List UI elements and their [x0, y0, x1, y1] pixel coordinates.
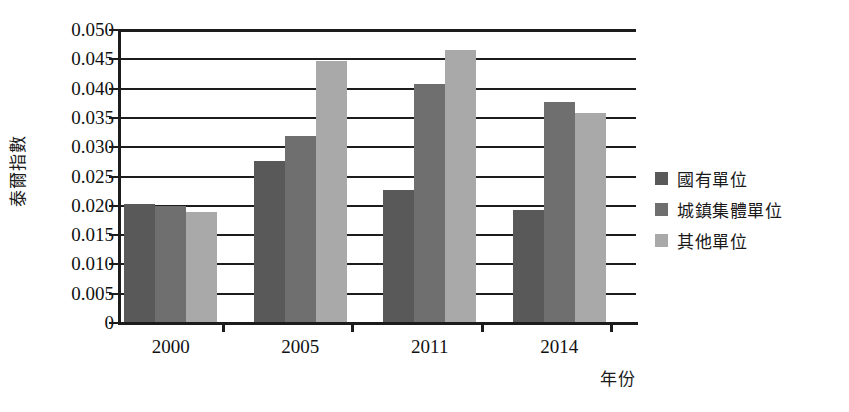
bar [285, 136, 316, 322]
legend-label: 國有單位 [677, 166, 747, 191]
x-axis-tick-mark [610, 322, 613, 332]
y-axis-tick-mark [109, 234, 118, 236]
y-axis-tick-mark [109, 88, 118, 90]
bar [383, 190, 414, 322]
y-axis-tick-mark [109, 146, 118, 148]
y-axis-tick-label: 0.040 [71, 78, 114, 97]
y-axis-tick-label: 0.020 [71, 195, 114, 214]
y-axis-tick-mark [109, 322, 118, 324]
bar [155, 206, 186, 322]
legend-swatch-icon [655, 172, 668, 185]
plot-area [118, 29, 636, 322]
x-axis-tick-label: 2011 [411, 336, 448, 358]
y-axis-tick-label: 0.035 [71, 107, 114, 126]
legend-item: 城鎮集體單位 [655, 194, 845, 225]
x-axis-tick-mark [351, 322, 354, 332]
y-axis-tick-label: 0.025 [71, 166, 114, 185]
y-axis-tick-mark [109, 117, 118, 119]
bar [124, 204, 155, 322]
y-axis-tick-label: 0.050 [71, 20, 114, 39]
bar-chart-figure: 泰爾指數 0.0500.0450.0400.0350.0300.0250.020… [0, 0, 849, 412]
legend-item: 其他單位 [655, 225, 845, 256]
bar [513, 210, 544, 323]
bar-groups [118, 29, 636, 322]
x-axis-tick-label: 2014 [540, 336, 578, 358]
y-axis-tick-labels: 0.0500.0450.0400.0350.0300.0250.0200.015… [30, 20, 114, 332]
bar [186, 212, 217, 322]
bar-group [124, 29, 217, 322]
legend-item: 國有單位 [655, 163, 845, 194]
bar-group [513, 29, 606, 322]
y-axis-tick-mark [109, 293, 118, 295]
legend-label: 其他單位 [677, 228, 747, 253]
bar [575, 113, 606, 322]
y-axis-tick-label: 0.005 [71, 283, 114, 302]
y-axis-tick-label: 0.010 [71, 254, 114, 273]
x-axis-line [118, 322, 638, 325]
y-axis-tick-mark [109, 58, 118, 60]
figure-caption [148, 398, 668, 412]
bar [544, 102, 575, 322]
y-axis-tick-mark [109, 176, 118, 178]
legend-swatch-icon [655, 234, 668, 247]
bar [414, 84, 445, 323]
bar [445, 50, 476, 322]
y-axis-tick-label: 0.015 [71, 225, 114, 244]
y-axis-tick-mark [109, 205, 118, 207]
bar [254, 161, 285, 322]
x-axis-title: 年份 [600, 365, 636, 390]
x-axis-tick-mark [481, 322, 484, 332]
legend-swatch-icon [655, 203, 668, 216]
bar [316, 61, 347, 322]
bar-group [383, 29, 476, 322]
y-axis-tick-mark [109, 263, 118, 265]
x-axis-tick-label: 2000 [152, 336, 190, 358]
x-axis-tick-label: 2005 [281, 336, 319, 358]
legend-label: 城鎮集體單位 [677, 197, 782, 222]
chart-legend: 國有單位城鎮集體單位其他單位 [655, 163, 845, 256]
y-axis-tick-label: 0.045 [71, 49, 114, 68]
y-axis-tick-label: 0.030 [71, 137, 114, 156]
x-axis-tick-mark [222, 322, 225, 332]
y-axis-tick-mark [109, 29, 118, 31]
bar-group [254, 29, 347, 322]
